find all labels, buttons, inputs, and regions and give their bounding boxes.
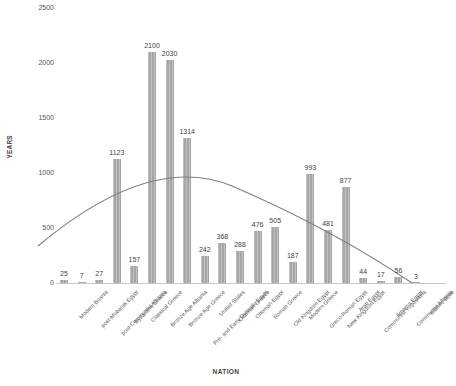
bar-value-label: 157 — [121, 256, 147, 264]
bar-value-label: 368 — [209, 233, 235, 241]
bar[interactable] — [289, 262, 297, 283]
x-axis-line — [56, 283, 446, 284]
bar[interactable] — [201, 256, 209, 283]
bar[interactable] — [166, 60, 174, 283]
bar[interactable] — [324, 230, 332, 283]
bar-value-label: 27 — [86, 270, 112, 278]
x-axis-category-label: Modern Bosnia — [78, 289, 110, 321]
bar[interactable] — [306, 174, 314, 283]
bar-value-label: 993 — [297, 164, 323, 172]
bar[interactable] — [95, 280, 103, 283]
bar-value-label: 3 — [403, 273, 429, 281]
bar[interactable] — [60, 280, 68, 283]
y-axis-title: YEARS — [6, 145, 13, 159]
bar-value-label: 1123 — [104, 149, 130, 157]
bar[interactable] — [271, 227, 279, 283]
bar-value-label: 187 — [280, 252, 306, 260]
bar-value-label: 1314 — [174, 128, 200, 136]
bar[interactable] — [130, 266, 138, 283]
bar[interactable] — [78, 282, 86, 283]
bar[interactable] — [359, 278, 367, 283]
x-axis-category-label: Amarna Egypt — [394, 289, 424, 319]
bar[interactable] — [254, 231, 262, 283]
y-axis-tick-label: 2000 — [18, 59, 54, 67]
bar[interactable] — [394, 277, 402, 283]
bar[interactable] — [113, 159, 121, 283]
bar[interactable] — [377, 281, 385, 283]
bar[interactable] — [148, 52, 156, 283]
bar-value-label: 877 — [333, 177, 359, 185]
bar[interactable] — [412, 282, 420, 283]
y-axis-tick-label: 2500 — [18, 4, 54, 12]
bar-value-label: 505 — [262, 217, 288, 225]
bar[interactable] — [183, 138, 191, 283]
bar[interactable] — [342, 187, 350, 283]
y-axis-tick-label: 1000 — [18, 169, 54, 177]
x-axis-title: NATION — [0, 368, 452, 375]
bar-value-label: 481 — [315, 220, 341, 228]
bar-value-label: 242 — [192, 246, 218, 254]
bar[interactable] — [218, 243, 226, 283]
y-axis-tick-label: 1500 — [18, 114, 54, 122]
y-axis-tick-label: 500 — [18, 224, 54, 232]
bar-value-label: 288 — [227, 241, 253, 249]
bar[interactable] — [236, 251, 244, 283]
bar-value-label: 2030 — [157, 50, 183, 58]
x-axis-category-label: Islamic State — [428, 289, 456, 317]
y-axis-tick-label: 0 — [18, 279, 54, 287]
